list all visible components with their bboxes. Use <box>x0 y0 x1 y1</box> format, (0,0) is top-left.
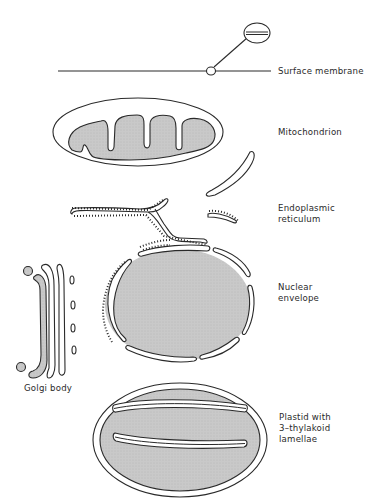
plastid-label-line-3: lamellae <box>279 434 331 445</box>
endoplasmic-reticulum-label-line-2: reticulum <box>278 214 335 225</box>
golgi-body-label: Golgi body <box>24 383 72 394</box>
plastid-label-line-2: 3–thylakoid <box>279 423 331 434</box>
endoplasmic-reticulum-label: Endoplasmic reticulum <box>278 203 335 225</box>
plastid-label-line-1: Plastid with <box>279 412 331 423</box>
nuclear-envelope-label-line-2: envelope <box>278 293 319 304</box>
nuclear-envelope-label-line-1: Nuclear <box>278 282 319 293</box>
plastid-label: Plastid with 3–thylakoid lamellae <box>279 412 331 445</box>
mitochondrion-figure <box>53 98 254 196</box>
surface-membrane-figure <box>58 23 271 75</box>
surface-membrane-label: Surface membrane <box>278 66 364 77</box>
nuclear-envelope-figure <box>103 245 254 362</box>
endoplasmic-reticulum-label-line-1: Endoplasmic <box>278 203 335 214</box>
mitochondrion-label: Mitochondrion <box>278 127 342 138</box>
endoplasmic-reticulum-figure <box>71 199 238 247</box>
plastid-figure <box>93 383 267 497</box>
golgi-body-figure <box>17 264 77 378</box>
nuclear-envelope-label: Nuclear envelope <box>278 282 319 304</box>
